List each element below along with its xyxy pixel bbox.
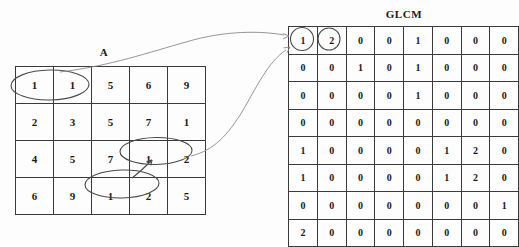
glcm-cell-r3c6: 0 bbox=[432, 82, 461, 110]
glcm-cell-r3c8: 0 bbox=[490, 82, 519, 110]
glcm-cell-r7c8: 1 bbox=[490, 192, 519, 220]
glcm-cell-r7c5: 0 bbox=[404, 192, 433, 220]
glcm-title: GLCM bbox=[368, 8, 440, 20]
glcm-cell-r4c5: 0 bbox=[404, 109, 433, 137]
glcm-body: 1 2 0 0 1 0 0 0 0 0 1 0 1 0 0 0 0 0 bbox=[289, 27, 519, 247]
glcm-cell-r3c2: 0 bbox=[317, 82, 346, 110]
glcm-cell-r5c7: 2 bbox=[461, 137, 490, 165]
glcm-cell-r8c3: 0 bbox=[346, 219, 375, 247]
glcm-cell-r2c3: 1 bbox=[346, 54, 375, 82]
glcm-cell-r7c6: 0 bbox=[432, 192, 461, 220]
matrix-a-cell-r4c1: 6 bbox=[16, 178, 54, 215]
table-row: 4 5 7 1 2 bbox=[16, 141, 206, 178]
glcm-cell-r8c7: 0 bbox=[461, 219, 490, 247]
glcm-cell-r6c7: 2 bbox=[461, 164, 490, 192]
glcm-cell-r8c5: 0 bbox=[404, 219, 433, 247]
glcm-cell-r5c2: 0 bbox=[317, 137, 346, 165]
glcm-cell-r1c5: 1 bbox=[404, 27, 433, 55]
matrix-a-cell-r2c2: 3 bbox=[54, 104, 92, 141]
glcm-cell-r8c4: 0 bbox=[375, 219, 404, 247]
matrix-a-cell-r1c3: 5 bbox=[92, 67, 130, 104]
glcm-grid: 1 2 0 0 1 0 0 0 0 0 1 0 1 0 0 0 0 0 bbox=[288, 26, 519, 247]
matrix-a-cell-r4c2: 9 bbox=[54, 178, 92, 215]
glcm-cell-r3c4: 0 bbox=[375, 82, 404, 110]
matrix-a-cell-r3c4: 1 bbox=[130, 141, 168, 178]
glcm-cell-r6c6: 1 bbox=[432, 164, 461, 192]
table-row: 0 0 0 0 1 0 0 0 bbox=[289, 82, 519, 110]
glcm-cell-r6c1: 1 bbox=[289, 164, 318, 192]
glcm-cell-r4c6: 0 bbox=[432, 109, 461, 137]
glcm-cell-r5c5: 0 bbox=[404, 137, 433, 165]
glcm-cell-r4c1: 0 bbox=[289, 109, 318, 137]
table-row: 0 0 1 0 1 0 0 0 bbox=[289, 54, 519, 82]
glcm-cell-r4c2: 0 bbox=[317, 109, 346, 137]
glcm-cell-r2c5: 1 bbox=[404, 54, 433, 82]
glcm-cell-r8c6: 0 bbox=[432, 219, 461, 247]
matrix-a-cell-r2c1: 2 bbox=[16, 104, 54, 141]
glcm-cell-r2c2: 0 bbox=[317, 54, 346, 82]
glcm-cell-r6c2: 0 bbox=[317, 164, 346, 192]
glcm-cell-r6c5: 0 bbox=[404, 164, 433, 192]
glcm-cell-r7c4: 0 bbox=[375, 192, 404, 220]
matrix-a-cell-r3c1: 4 bbox=[16, 141, 54, 178]
glcm-cell-r1c1: 1 bbox=[289, 27, 318, 55]
matrix-a-cell-r3c2: 5 bbox=[54, 141, 92, 178]
glcm-cell-r6c3: 0 bbox=[346, 164, 375, 192]
glcm-cell-r7c1: 0 bbox=[289, 192, 318, 220]
glcm-cell-r2c6: 0 bbox=[432, 54, 461, 82]
glcm-cell-r2c7: 0 bbox=[461, 54, 490, 82]
glcm-cell-r6c4: 0 bbox=[375, 164, 404, 192]
matrix-a-grid: 1 1 5 6 9 2 3 5 7 1 4 5 7 1 2 6 bbox=[15, 66, 206, 215]
glcm-cell-r7c2: 0 bbox=[317, 192, 346, 220]
glcm-cell-r1c7: 0 bbox=[461, 27, 490, 55]
table-row: 2 0 0 0 0 0 0 0 bbox=[289, 219, 519, 247]
glcm-cell-r5c4: 0 bbox=[375, 137, 404, 165]
table-row: 2 3 5 7 1 bbox=[16, 104, 206, 141]
table-row: 1 0 0 0 0 1 2 0 bbox=[289, 164, 519, 192]
table-row: 0 0 0 0 0 0 0 1 bbox=[289, 192, 519, 220]
glcm-cell-r5c6: 1 bbox=[432, 137, 461, 165]
table-row: 1 1 5 6 9 bbox=[16, 67, 206, 104]
glcm-cell-r7c3: 0 bbox=[346, 192, 375, 220]
glcm-cell-r3c7: 0 bbox=[461, 82, 490, 110]
table-row: 6 9 1 2 5 bbox=[16, 178, 206, 215]
glcm-cell-r8c1: 2 bbox=[289, 219, 318, 247]
matrix-a-cell-r1c2: 1 bbox=[54, 67, 92, 104]
glcm-cell-r1c8: 0 bbox=[490, 27, 519, 55]
glcm-cell-r4c8: 0 bbox=[490, 109, 519, 137]
table-row: 1 0 0 0 0 1 2 0 bbox=[289, 137, 519, 165]
matrix-a-cell-r2c4: 7 bbox=[130, 104, 168, 141]
glcm-cell-r7c7: 0 bbox=[461, 192, 490, 220]
glcm-cell-r3c1: 0 bbox=[289, 82, 318, 110]
glcm-cell-r1c3: 0 bbox=[346, 27, 375, 55]
table-row: 0 0 0 0 0 0 0 0 bbox=[289, 109, 519, 137]
matrix-a-cell-r2c3: 5 bbox=[92, 104, 130, 141]
matrix-a-cell-r1c1: 1 bbox=[16, 67, 54, 104]
matrix-a-cell-r2c5: 1 bbox=[168, 104, 206, 141]
glcm-cell-r1c6: 0 bbox=[432, 27, 461, 55]
glcm-cell-r8c2: 0 bbox=[317, 219, 346, 247]
matrix-a-cell-r1c5: 9 bbox=[168, 67, 206, 104]
glcm-cell-r3c3: 0 bbox=[346, 82, 375, 110]
matrix-a-title: A bbox=[84, 46, 124, 58]
glcm-cell-r3c5: 1 bbox=[404, 82, 433, 110]
glcm-cell-r6c8: 0 bbox=[490, 164, 519, 192]
glcm-cell-r4c3: 0 bbox=[346, 109, 375, 137]
glcm-cell-r2c8: 0 bbox=[490, 54, 519, 82]
matrix-a-body: 1 1 5 6 9 2 3 5 7 1 4 5 7 1 2 6 bbox=[16, 67, 206, 215]
matrix-a-cell-r4c3: 1 bbox=[92, 178, 130, 215]
matrix-a-cell-r4c5: 5 bbox=[168, 178, 206, 215]
glcm-cell-r1c4: 0 bbox=[375, 27, 404, 55]
matrix-a-cell-r1c4: 6 bbox=[130, 67, 168, 104]
glcm-cell-r5c8: 0 bbox=[490, 137, 519, 165]
matrix-a-cell-r3c3: 7 bbox=[92, 141, 130, 178]
glcm-cell-r5c1: 1 bbox=[289, 137, 318, 165]
glcm-cell-r1c2: 2 bbox=[317, 27, 346, 55]
glcm-cell-r4c4: 0 bbox=[375, 109, 404, 137]
glcm-cell-r8c8: 0 bbox=[490, 219, 519, 247]
matrix-a-cell-r3c5: 2 bbox=[168, 141, 206, 178]
glcm-cell-r4c7: 0 bbox=[461, 109, 490, 137]
glcm-cell-r5c3: 0 bbox=[346, 137, 375, 165]
matrix-a-cell-r4c4: 2 bbox=[130, 178, 168, 215]
